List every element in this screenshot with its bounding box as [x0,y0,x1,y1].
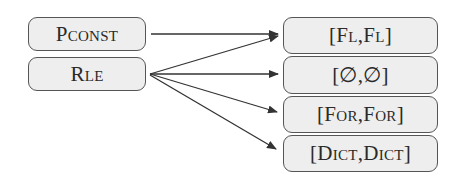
arrow-rle-to-for [150,74,277,112]
edges [0,0,461,177]
arrow-rle-to-fl [150,36,278,74]
arrow-rle-to-dict [150,75,276,149]
